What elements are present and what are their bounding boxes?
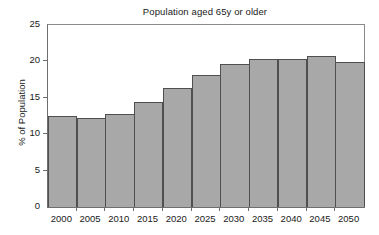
y-axis-tick-label: 20 [0,55,40,65]
y-axis-label: % of Population [14,0,30,230]
y-axis-tick-label: 15 [0,92,40,102]
bars-layer [48,25,364,207]
bar [105,114,134,207]
bar [220,64,249,207]
plot-area [47,24,365,208]
bar [77,118,106,207]
x-axis-tick-label: 2050 [329,213,369,225]
chart-title: Population aged 65y or older [47,6,363,17]
bar [278,59,307,208]
bar [163,88,192,207]
bar [335,62,364,207]
bar [249,59,278,208]
y-axis-tick-label: 0 [0,201,40,211]
bar-chart-figure: Population aged 65y or older % of Popula… [0,0,379,235]
bar [307,56,336,207]
bar [192,75,221,207]
y-axis-tick-label: 25 [0,19,40,29]
bar [48,116,77,207]
bar [134,102,163,207]
y-axis-tick-label: 10 [0,128,40,138]
y-axis-tick-label: 5 [0,165,40,175]
